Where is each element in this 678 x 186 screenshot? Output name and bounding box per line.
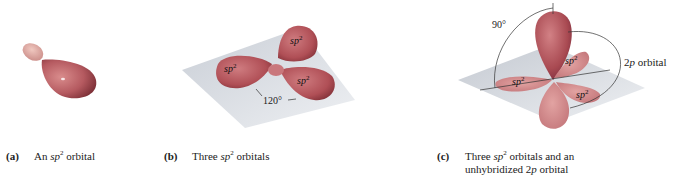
caption-text: unhybridized 2	[465, 163, 531, 175]
caption-italic: sp	[50, 150, 60, 162]
angle-label-90: 90°	[492, 19, 506, 30]
panel-b-three-sp2-orbitals: sp2 sp2 sp2 120° (b)Three sp2 orbitals	[150, 0, 380, 186]
2p-orbital-label: 2p orbital	[624, 56, 666, 68]
caption-text: Three	[192, 150, 220, 162]
caption-label: (a)	[6, 150, 34, 163]
sp2-and-2p-illustration: 90° sp2 sp2 sp2 2p orbital	[380, 0, 678, 140]
caption-text: orbital	[537, 163, 568, 175]
panel-a-sp2-orbital: (a)An sp2 orbital	[0, 0, 150, 186]
sp2-orbital-illustration	[0, 0, 150, 140]
caption-c: (c)Three sp2 orbitals and anunhybridized…	[437, 150, 574, 176]
three-sp2-orbitals-illustration: sp2 sp2 sp2 120°	[150, 0, 380, 140]
nucleus-small-lobes	[268, 64, 284, 76]
caption-italic: sp	[493, 150, 503, 162]
caption-text: orbital	[63, 150, 94, 162]
caption-text: orbitals and an	[507, 150, 575, 162]
caption-text: An	[34, 150, 50, 162]
caption-text: orbitals	[234, 150, 270, 162]
caption-label: (b)	[164, 150, 192, 163]
caption-b: (b)Three sp2 orbitals	[164, 150, 269, 163]
caption-italic: sp	[220, 150, 230, 162]
angle-label-120: 120°	[263, 95, 282, 106]
caption-a: (a)An sp2 orbital	[6, 150, 95, 163]
large-lobe	[42, 60, 97, 99]
caption-text: Three	[465, 150, 493, 162]
panel-c-sp2-and-2p: 90° sp2 sp2 sp2 2p orbital (c)Three sp2 …	[380, 0, 678, 186]
caption-label: (c)	[437, 150, 465, 163]
